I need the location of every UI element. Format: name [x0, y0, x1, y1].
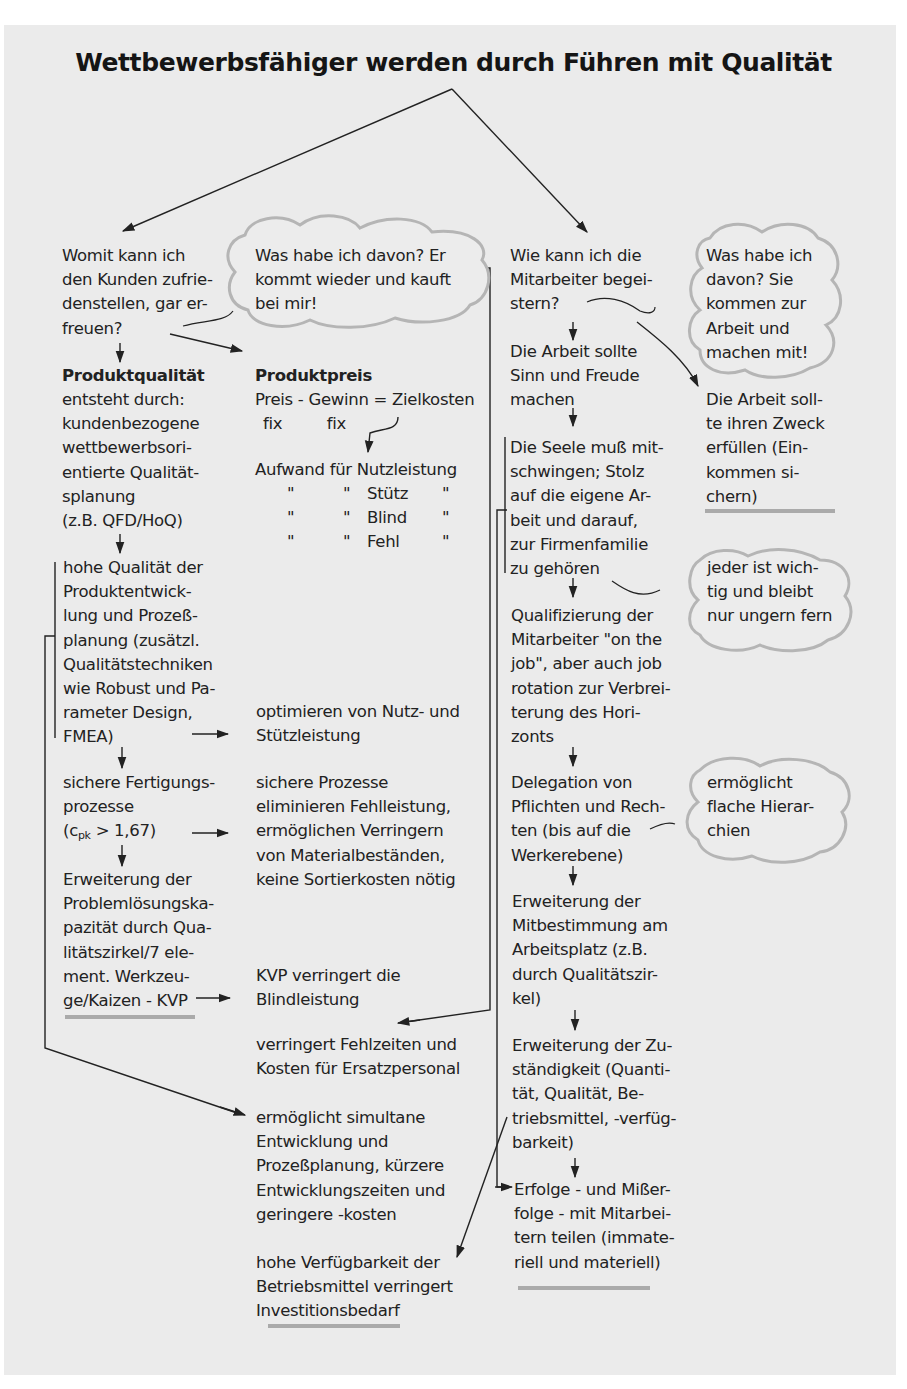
- kvp-text: KVP verringert die Blindleistung: [256, 964, 400, 1012]
- produktpreis-fix-labels: fix fix: [258, 412, 346, 436]
- cloud-customer-benefit: Was habe ich davon? Er kommt wieder und …: [255, 244, 451, 317]
- ditto-mark: ": [343, 506, 350, 530]
- produktpreis-heading: Produktpreis: [255, 364, 372, 388]
- sinn-freude-text: Die Arbeit sollte Sinn und Freude machen: [510, 340, 639, 413]
- aufwand-blind: Blind: [367, 506, 407, 530]
- erweiterung-problemloesung-text: Erweiterung der Problemlösungska- pazitä…: [63, 868, 214, 1013]
- customer-question: Womit kann ich den Kunden zufrie- denste…: [62, 244, 213, 341]
- cpk-suffix: > 1,67): [91, 821, 156, 840]
- qualifizierung-text: Qualifizierung der Mitarbeiter "on the j…: [511, 604, 670, 749]
- ditto-mark: ": [442, 482, 449, 506]
- aufwand-nutzleistung: Aufwand für Nutzleistung: [255, 458, 457, 482]
- aufwand-fehl: Fehl: [367, 530, 400, 554]
- cpk-subscript: pk: [78, 829, 91, 842]
- ditto-mark: ": [343, 482, 350, 506]
- ditto-mark: ": [442, 530, 449, 554]
- employee-question: Wie kann ich die Mitarbeiter begei- ster…: [510, 244, 652, 317]
- seele-text: Die Seele muß mit- schwingen; Stolz auf …: [510, 436, 663, 581]
- optimieren-text: optimieren von Nutz- und Stützleistung: [256, 700, 460, 748]
- produktpreis-formula: Preis - Gewinn = Zielkosten: [255, 388, 474, 412]
- cpk-prefix: (c: [63, 821, 78, 840]
- erfolge-text: Erfolge - und Mißer- folge - mit Mitarbe…: [514, 1178, 674, 1275]
- verfuegbarkeit-text: hohe Verfügbarkeit der Betriebsmittel ve…: [256, 1251, 453, 1324]
- cloud-flache-hierarchien: ermöglicht flache Hierar- chien: [707, 771, 814, 844]
- produktqualitaet-text: entsteht durch: kundenbezogene wettbewer…: [62, 388, 199, 533]
- zweck-text: Die Arbeit soll- te ihren Zweck erfüllen…: [706, 388, 825, 509]
- sichere-fertigung-line1: sichere Fertigungs-: [63, 771, 215, 795]
- ditto-mark: ": [442, 506, 449, 530]
- produktqualitaet-heading: Produktqualität: [62, 364, 204, 388]
- zustaendigkeit-text: Erweiterung der Zu- ständigkeit (Quanti-…: [512, 1034, 676, 1155]
- delegation-text: Delegation von Pflichten und Rech- ten (…: [511, 771, 665, 868]
- cpk-value: (cpk > 1,67): [63, 819, 156, 848]
- hohe-qualitaet-text: hohe Qualität der Produktentwick- lung u…: [63, 556, 215, 750]
- mitbestimmung-text: Erweiterung der Mitbestimmung am Arbeits…: [512, 890, 668, 1011]
- fehlzeiten-text: verringert Fehlzeiten und Kosten für Ers…: [256, 1033, 460, 1081]
- ditto-mark: ": [287, 482, 294, 506]
- cloud-wichtig: jeder ist wich- tig und bleibt nur unger…: [707, 556, 832, 629]
- cloud-employee-benefit: Was habe ich davon? Sie kommen zur Arbei…: [706, 244, 812, 365]
- aufwand-stuetz: Stütz: [367, 482, 408, 506]
- ditto-mark: ": [287, 530, 294, 554]
- sichere-fertigung-line2: prozesse: [63, 795, 134, 819]
- ditto-mark: ": [343, 530, 350, 554]
- simultane-entwicklung-text: ermöglicht simultane Entwicklung und Pro…: [256, 1106, 445, 1227]
- sichere-prozesse-text: sichere Prozesse eliminieren Fehlleistun…: [256, 771, 455, 892]
- ditto-mark: ": [287, 506, 294, 530]
